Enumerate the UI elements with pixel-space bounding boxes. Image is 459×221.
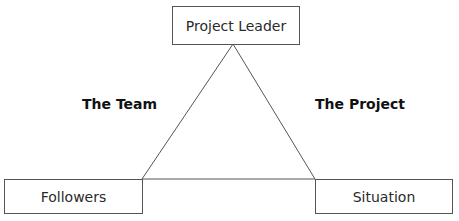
node-situation: Situation	[315, 179, 453, 214]
node-project-leader-label: Project Leader	[186, 18, 286, 34]
edge-label-the-team: The Team	[82, 96, 157, 112]
edge-leader-to-situation	[233, 44, 315, 179]
node-followers: Followers	[4, 179, 143, 214]
node-situation-label: Situation	[353, 189, 416, 205]
node-followers-label: Followers	[41, 189, 107, 205]
edge-label-the-project: The Project	[315, 96, 405, 112]
leadership-triangle-diagram: Project Leader Followers Situation The T…	[0, 0, 459, 221]
node-project-leader: Project Leader	[172, 6, 300, 45]
